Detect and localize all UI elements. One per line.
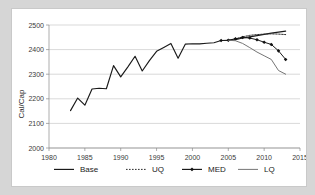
legend-item-lq[interactable]: LQ	[238, 165, 275, 174]
legend-item-med[interactable]: MED	[182, 165, 226, 174]
legend-label: LQ	[264, 165, 275, 174]
chart-panel: 200021002200230024002500 198019851990199…	[11, 8, 307, 187]
x-tick-label: 1985	[77, 154, 93, 161]
x-tick-label: 2015	[292, 154, 306, 161]
y-axis	[46, 25, 49, 148]
y-axis-title: Cal/Cap	[17, 89, 26, 118]
legend-label: MED	[208, 165, 226, 174]
gridlines	[49, 25, 300, 148]
chart-page: 200021002200230024002500 198019851990199…	[0, 0, 315, 195]
line-chart: 200021002200230024002500 198019851990199…	[12, 9, 306, 186]
x-tick-label: 2010	[256, 154, 272, 161]
legend-item-base[interactable]: Base	[54, 165, 99, 174]
legend-item-uq[interactable]: UQ	[126, 165, 164, 174]
series-line-lq	[228, 40, 285, 74]
series-marker-med	[262, 40, 266, 44]
legend-marker	[190, 168, 194, 172]
x-tick-label: 2000	[185, 154, 201, 161]
x-tick-label: 1995	[149, 154, 165, 161]
y-tick-label: 2100	[28, 120, 44, 127]
x-tick-label: 2005	[220, 154, 236, 161]
x-tick-label: 1980	[41, 154, 57, 161]
y-tick-label: 2400	[28, 46, 44, 53]
y-tick-label: 2200	[28, 95, 44, 102]
chart-legend: BaseUQMEDLQ	[54, 165, 275, 174]
legend-label: UQ	[152, 165, 164, 174]
x-tick-labels: 19801985199019952000200520102015	[41, 154, 306, 161]
legend-label: Base	[80, 165, 99, 174]
y-tick-label: 2000	[28, 145, 44, 152]
series-marker-med	[219, 39, 223, 43]
series-marker-med	[255, 38, 259, 42]
y-tick-label: 2300	[28, 71, 44, 78]
x-tick-label: 1990	[113, 154, 129, 161]
y-tick-labels: 200021002200230024002500	[28, 22, 44, 152]
x-axis	[49, 148, 300, 151]
y-tick-label: 2500	[28, 22, 44, 29]
